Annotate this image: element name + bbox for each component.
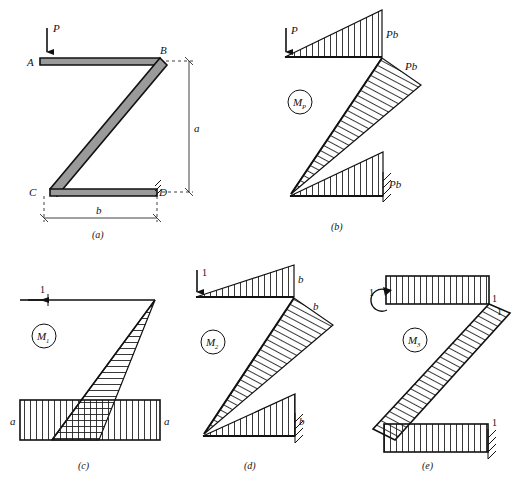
panel-e-value-label-top: 1: [492, 293, 497, 304]
z-frame-member: [40, 58, 167, 196]
panel-b-load-label: P: [290, 24, 298, 36]
panel-c-value-label-right: a: [164, 415, 170, 427]
panel-b-caption: (b): [331, 221, 343, 233]
panel-a: P A B C D a b (a): [26, 22, 200, 241]
panel-d-label-subscript: 2: [215, 343, 219, 350]
panel-a-caption: (a): [92, 229, 104, 241]
panel-e-diagonal-ordinate: [373, 304, 510, 440]
panel-b-value-label-top: Pb: [385, 28, 399, 40]
panel-e-top-ordinate: [386, 276, 489, 304]
panel-e-diagram-label: M 3: [403, 328, 427, 352]
panel-d: 1 b b b M 2 (d): [196, 265, 333, 472]
panel-b-value-label-diagonal: Pb: [404, 60, 418, 72]
panel-c-label-subscript: 1: [46, 337, 49, 344]
panel-e-value-label-diagonal: 1: [497, 306, 502, 317]
panel-d-value-label-top: b: [298, 273, 304, 285]
engineering-figure: P A B C D a b (a): [0, 0, 514, 484]
dimension-label-b: b: [96, 204, 102, 216]
panel-c-diagram-label: M 1: [32, 324, 56, 348]
dimension-vertical-a: [162, 57, 193, 196]
panel-d-top-ordinate: [196, 265, 294, 297]
panel-a-load-label: P: [52, 22, 60, 34]
dimension-label-a: a: [194, 122, 200, 134]
panel-b: P Pb Pb Pb M P (b): [285, 10, 421, 233]
panel-b-diagram-label: M P: [288, 90, 312, 114]
panel-b-top-ordinate: [285, 10, 382, 57]
panel-e-caption: (e): [422, 460, 434, 472]
panel-d-caption: (d): [244, 460, 256, 472]
panel-e-load-label: 1: [369, 287, 374, 298]
panel-c-load-label: 1: [40, 284, 45, 295]
panel-b-value-label-bottom: Pb: [388, 178, 402, 190]
panel-e-fixed-support: [488, 429, 496, 459]
panel-c: 1 a a M 1 (c): [10, 284, 170, 472]
frame-diagonal-member: [50, 58, 167, 196]
panel-d-value-label-diagonal: b: [313, 300, 319, 312]
joint-label-a: A: [26, 56, 34, 68]
panel-e-bottom-ordinate: [384, 424, 488, 452]
panel-d-diagram-label: M 2: [201, 330, 225, 354]
joint-label-b: B: [160, 44, 167, 56]
panel-e-label-subscript: 3: [416, 341, 421, 348]
panel-c-value-label-left: a: [10, 415, 16, 427]
joint-label-c: C: [29, 186, 37, 198]
panel-d-value-label-bottom: b: [299, 415, 305, 427]
panel-b-label-subscript: P: [301, 103, 306, 110]
panel-c-caption: (c): [78, 460, 90, 472]
frame-bottom-member: [50, 189, 157, 196]
panel-e: 1 1 1 1 M 3 (e): [369, 276, 510, 472]
figure-canvas: P A B C D a b (a): [0, 0, 514, 484]
panel-c-bottom-ordinate: [20, 400, 160, 440]
panel-e-value-label-bottom: 1: [492, 417, 497, 428]
frame-top-member: [40, 58, 160, 65]
panel-d-load-label: 1: [202, 267, 207, 278]
